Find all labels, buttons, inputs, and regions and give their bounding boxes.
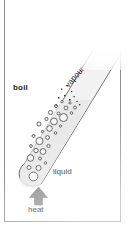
bubble	[39, 157, 42, 160]
bubble	[44, 162, 46, 164]
fleck	[58, 97, 60, 99]
fleck	[77, 101, 78, 102]
bubble	[47, 126, 53, 132]
bubble	[60, 114, 68, 122]
label-boil: boil	[13, 84, 28, 92]
fleck	[56, 105, 57, 106]
bubble	[41, 130, 43, 132]
fleck	[79, 104, 80, 105]
bubble	[74, 106, 77, 109]
bubble	[47, 144, 50, 147]
boiling-test-tube-illustration	[0, 0, 132, 240]
fleck	[64, 95, 65, 96]
bubble	[46, 136, 50, 140]
bubble	[70, 112, 73, 115]
heat-arrow	[30, 187, 48, 205]
fleck	[71, 91, 72, 92]
label-liquid: liquid	[53, 168, 72, 176]
bubble	[30, 145, 33, 148]
bubble	[40, 149, 46, 155]
bubble	[45, 117, 48, 120]
bubble	[51, 118, 58, 125]
fleck	[69, 99, 71, 101]
bubble	[34, 148, 38, 152]
bubble	[36, 165, 41, 170]
fleck	[74, 96, 75, 97]
bubble	[69, 102, 71, 104]
label-heat: heat	[28, 206, 44, 214]
bubble	[54, 132, 57, 135]
fleck	[61, 89, 62, 90]
bubble	[29, 172, 38, 181]
bubble	[59, 125, 61, 127]
bubble	[64, 106, 68, 110]
bubble	[48, 110, 52, 114]
bubble	[32, 135, 35, 138]
bubble	[27, 155, 34, 162]
bubble	[57, 112, 60, 115]
figure-canvas: boil vapour liquid heat	[0, 0, 132, 240]
bubble	[27, 166, 31, 170]
bubble	[37, 122, 41, 126]
bubble	[61, 100, 63, 102]
bubble	[36, 137, 43, 144]
